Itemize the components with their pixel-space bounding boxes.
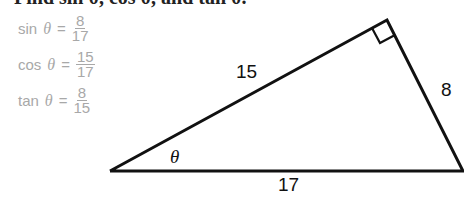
side-label-adjacent: 15: [236, 61, 257, 83]
angle-label-theta: θ: [170, 146, 179, 168]
right-triangle-diagram: [0, 0, 464, 200]
side-label-opposite: 8: [441, 79, 452, 101]
triangle-outline: [110, 20, 463, 171]
side-label-hypotenuse: 17: [278, 174, 299, 196]
